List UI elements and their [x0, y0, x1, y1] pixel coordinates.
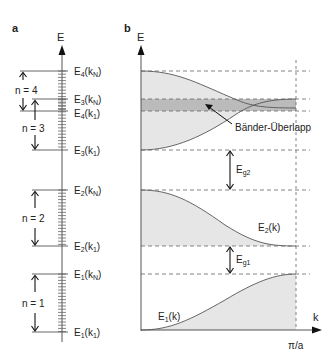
- overlap-label: Bänder-Überlapp: [235, 122, 312, 133]
- panel-a: a E E4(kN) E3(kN) E4(k1) E3(k1) E2(kN): [12, 22, 101, 342]
- level-label-e4-kn: E4(kN): [74, 66, 101, 78]
- gap-label-eg2: Eg2: [236, 164, 251, 177]
- curve-label-e2k: E2(k): [258, 222, 280, 234]
- level-label-e3-kn: E3(kN): [74, 94, 101, 106]
- x-axis-arrow-icon: [312, 327, 322, 334]
- panel-b-label: b: [124, 22, 131, 34]
- curve-label-e1k: E1(k): [158, 311, 180, 323]
- level-labels: E4(kN) E3(kN) E4(k1) E3(k1) E2(kN) E2(k1…: [74, 66, 101, 339]
- panel-a-label: a: [12, 22, 19, 34]
- band-3-4-region: [141, 71, 296, 150]
- y-axis-arrow-icon: [138, 45, 145, 55]
- x-tick-pi-over-a: π/a: [288, 340, 304, 351]
- panel-a-axis-label: E: [57, 31, 64, 43]
- level-label-e4-k1: E4(k1): [74, 108, 100, 120]
- level-label-e1-k1: E1(k1): [74, 327, 100, 339]
- band-label-n1: n = 1: [22, 298, 45, 309]
- band-labels: n = 4 n = 3 n = 2 n = 1: [15, 85, 45, 309]
- level-label-e2-k1: E2(k1): [74, 241, 100, 253]
- level-label-e1-kn: E1(kN): [74, 269, 101, 281]
- panel-b-y-axis-label: E: [137, 31, 144, 43]
- axis-arrow-icon: [59, 45, 66, 55]
- panel-b: b E: [124, 22, 322, 351]
- band-structure-diagram: a E E4(kN) E3(kN) E4(k1) E3(k1) E2(kN): [0, 0, 334, 357]
- band-label-n4: n = 4: [15, 85, 38, 96]
- x-axis-label: k: [313, 311, 319, 323]
- band-label-n3: n = 3: [22, 123, 45, 134]
- level-label-e2-kn: E2(kN): [74, 185, 101, 197]
- band-label-n2: n = 2: [22, 213, 45, 224]
- level-label-e3-k1: E3(k1): [74, 145, 100, 157]
